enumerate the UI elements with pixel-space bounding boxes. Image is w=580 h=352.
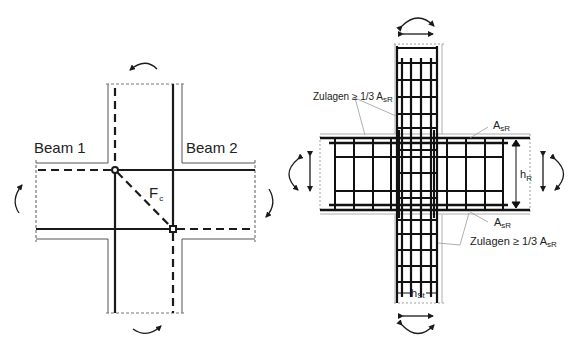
beam-2-label: Beam 2 bbox=[186, 139, 238, 156]
rotation-arrow-top-icon bbox=[402, 18, 434, 26]
moment-arrow-left-icon bbox=[15, 185, 22, 213]
hr-dimension bbox=[512, 140, 520, 208]
asr-bottom-label: AsR bbox=[494, 216, 511, 230]
rotation-arrow-right-icon bbox=[555, 159, 564, 190]
left-joint-diagram: Beam 1 Beam 2 Fc bbox=[15, 63, 273, 333]
force-label: Fc bbox=[149, 184, 163, 203]
diagram-canvas: Beam 1 Beam 2 Fc bbox=[0, 0, 580, 352]
section-cut-lines bbox=[36, 84, 255, 313]
node-top-left bbox=[112, 167, 118, 173]
asr-top-label: AsR bbox=[493, 119, 510, 133]
tension-chords bbox=[36, 84, 255, 313]
zulagen-top-label: Zulagen ≥ 1/3 AsR bbox=[313, 91, 393, 104]
moment-arrow-bottom-icon bbox=[133, 326, 161, 333]
column-outline bbox=[36, 84, 255, 313]
rotation-arrow-left-icon bbox=[289, 159, 298, 190]
moment-arrow-top-icon bbox=[130, 63, 157, 70]
moment-arrow-right-icon bbox=[266, 189, 273, 217]
compression-chords bbox=[38, 88, 255, 313]
column-longitudinal-bars bbox=[397, 46, 437, 303]
rotation-arrow-bottom-icon bbox=[402, 325, 434, 334]
beam-1-label: Beam 1 bbox=[34, 139, 86, 156]
node-bottom-right bbox=[170, 226, 176, 232]
zulagen-bottom-label: Zulagen ≥ 1/3 AsR bbox=[470, 235, 557, 249]
hst-label: hSt bbox=[411, 287, 425, 300]
right-reinforcement-diagram: Zulagen ≥ 1/3 AsR AsR AsR Zulagen ≥ 1/3 … bbox=[289, 18, 564, 334]
